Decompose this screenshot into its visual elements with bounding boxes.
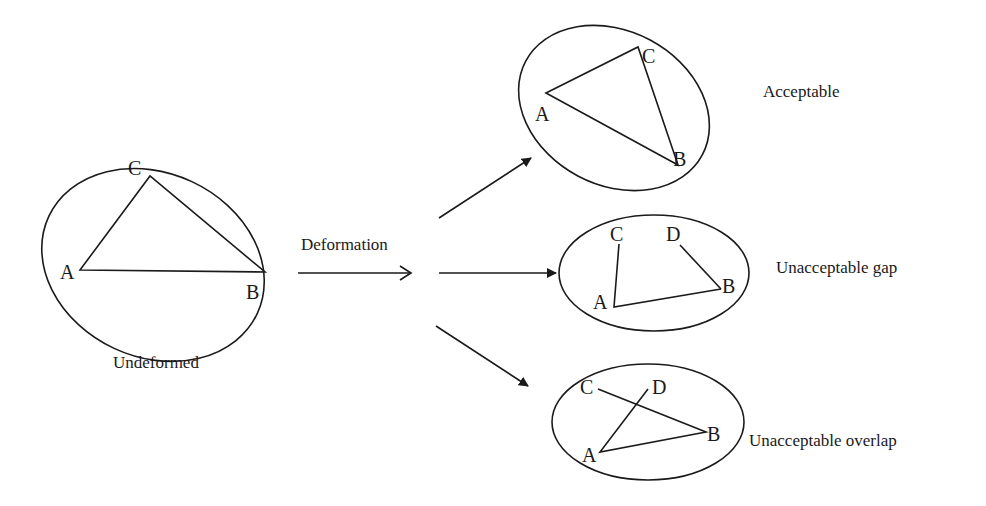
deformation-label: Deformation: [301, 235, 388, 254]
vertex-label-a: A: [535, 103, 550, 125]
deformation-step: Deformation: [298, 235, 411, 280]
vertex-label-c: C: [580, 376, 593, 398]
gap-edges-c-a-b: [614, 244, 721, 307]
vertex-label-b: B: [722, 275, 735, 297]
acceptable-caption: Acceptable: [763, 82, 839, 101]
deformation-diagram: C A B Undeformed Deformation C A B Accep…: [0, 0, 986, 506]
overlap-edges: [598, 389, 706, 452]
gap-edge-d-b: [680, 245, 721, 289]
vertex-label-d: D: [666, 223, 680, 245]
undeformed-caption: Undeformed: [113, 353, 199, 372]
vertex-label-c: C: [610, 223, 623, 245]
gap-element: C D A B Unacceptable gap: [559, 215, 897, 331]
undeformed-triangle: [80, 176, 265, 272]
vertex-label-c: C: [128, 157, 141, 179]
gap-boundary: [559, 215, 749, 331]
vertex-label-a: A: [582, 444, 597, 466]
vertex-label-b: B: [673, 148, 686, 170]
overlap-element: C D A B Unacceptable overlap: [552, 364, 897, 480]
vertex-label-d: D: [652, 376, 666, 398]
overlap-caption: Unacceptable overlap: [749, 431, 897, 450]
arrow-to-overlap-icon: [436, 326, 528, 386]
vertex-label-b: B: [246, 281, 259, 303]
vertex-label-c: C: [642, 45, 655, 67]
acceptable-triangle: [546, 47, 678, 165]
vertex-label-a: A: [60, 261, 75, 283]
gap-caption: Unacceptable gap: [776, 258, 897, 277]
vertex-label-b: B: [707, 423, 720, 445]
undeformed-element: C A B Undeformed: [10, 133, 296, 397]
acceptable-boundary: [490, 0, 739, 223]
acceptable-element: C A B Acceptable: [490, 0, 840, 223]
vertex-label-a: A: [593, 291, 608, 313]
arrow-to-acceptable-icon: [439, 158, 531, 218]
